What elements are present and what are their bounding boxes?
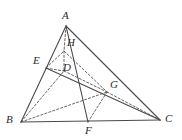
vertex-label-A: A bbox=[62, 10, 69, 21]
segment-side-AC bbox=[66, 26, 160, 120]
segment-FG bbox=[88, 92, 107, 122]
vertex-label-C: C bbox=[165, 113, 172, 124]
segment-side-BC bbox=[21, 120, 160, 122]
segment-BG bbox=[21, 92, 107, 122]
vertex-label-H: H bbox=[67, 37, 75, 48]
segment-DG bbox=[64, 71, 107, 92]
vertex-label-G: G bbox=[110, 79, 118, 90]
vertex-label-F: F bbox=[85, 125, 92, 136]
diagram-canvas bbox=[0, 0, 182, 140]
vertex-label-D: D bbox=[63, 62, 71, 73]
vertex-label-E: E bbox=[33, 55, 40, 66]
geometry-figure: ABCEFGHD bbox=[0, 0, 182, 140]
vertex-label-B: B bbox=[6, 114, 13, 125]
segment-cevian-EC bbox=[46, 68, 160, 120]
segment-EH bbox=[46, 51, 64, 68]
